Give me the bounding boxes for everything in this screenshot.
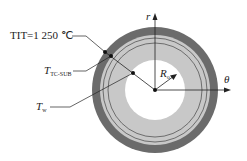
tit-leader bbox=[72, 36, 105, 52]
t-w-subscript: w bbox=[42, 107, 46, 113]
t-tc-sub-subscript: TC-SUB bbox=[50, 71, 71, 77]
center-point bbox=[153, 88, 157, 92]
r-axis-arrow-icon bbox=[153, 13, 158, 20]
t-tc-sub-label: TTC-SUB bbox=[44, 64, 71, 77]
radius-main: R bbox=[160, 67, 167, 79]
cross-section-diagram bbox=[0, 0, 247, 161]
tit-label: TIT=1 250 ℃ bbox=[10, 29, 73, 42]
t-w-label: Tw bbox=[36, 100, 46, 113]
t-tc-sub-point bbox=[109, 54, 113, 58]
theta-axis-label: θ bbox=[224, 73, 229, 85]
radius-subscript: o bbox=[167, 74, 170, 80]
radius-label: Ro bbox=[160, 67, 170, 80]
theta-axis-arrow-icon bbox=[224, 88, 231, 93]
tit-point bbox=[103, 50, 107, 54]
t-w-point bbox=[131, 71, 135, 75]
r-axis-label: r bbox=[146, 10, 150, 22]
